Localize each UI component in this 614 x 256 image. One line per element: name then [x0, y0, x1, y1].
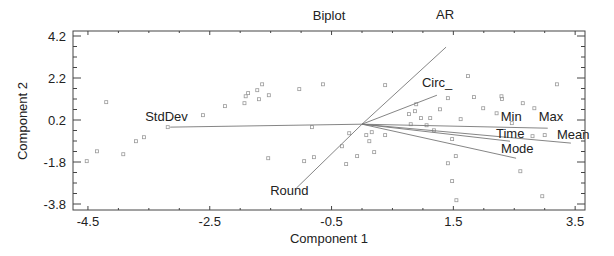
- data-point: [267, 94, 270, 97]
- data-point: [105, 101, 108, 104]
- data-point: [429, 117, 432, 120]
- y-axis-label: Component 2: [15, 82, 30, 160]
- data-point: [356, 155, 359, 158]
- biplot-chart: Biplot -4.5-2.5-0.51.53.5 4.22.20.2-1.8-…: [0, 0, 614, 256]
- data-point: [495, 112, 498, 115]
- y-tick-label: -3.8: [44, 197, 66, 212]
- data-point: [267, 157, 270, 160]
- data-point: [384, 84, 387, 87]
- data-point: [166, 126, 169, 129]
- vector-mean: [362, 124, 571, 143]
- vector-circ: [362, 95, 437, 124]
- vector-label: Min: [501, 109, 522, 124]
- data-point: [243, 102, 246, 105]
- vector-stddev: [170, 124, 362, 127]
- vector-label: StdDev: [145, 109, 188, 124]
- x-tick-label: -4.5: [77, 214, 99, 229]
- data-point: [555, 83, 558, 86]
- vector-label: Mode: [501, 141, 534, 156]
- data-point: [482, 107, 485, 110]
- x-tick-label: 3.5: [566, 214, 584, 229]
- data-point: [384, 134, 387, 137]
- y-tick-label: -1.8: [44, 155, 66, 170]
- data-point: [122, 153, 125, 156]
- vector-label: Circ_: [422, 75, 453, 90]
- data-point: [370, 131, 373, 134]
- vector-label: Round: [270, 183, 308, 198]
- data-point: [466, 75, 469, 78]
- data-point: [85, 160, 88, 163]
- y-tick-label: 4.2: [48, 29, 66, 44]
- data-point: [96, 150, 99, 153]
- data-point: [202, 114, 205, 117]
- data-point: [311, 126, 314, 129]
- x-tick-label: 1.5: [444, 214, 462, 229]
- data-point: [298, 88, 301, 91]
- data-point: [312, 156, 315, 159]
- chart-title: Biplot: [313, 8, 346, 23]
- data-point: [247, 92, 250, 95]
- y-tick-label: 0.2: [48, 113, 66, 128]
- data-point: [451, 138, 454, 141]
- chart-canvas: Biplot -4.5-2.5-0.51.53.5 4.22.20.2-1.8-…: [0, 0, 614, 256]
- x-tick-label: -2.5: [199, 214, 221, 229]
- data-point: [455, 199, 458, 202]
- vector-label: Max: [539, 109, 564, 124]
- data-point: [348, 132, 351, 135]
- vector-label: Mean: [557, 127, 590, 142]
- data-point: [258, 98, 261, 101]
- data-point: [454, 155, 457, 158]
- data-point: [373, 151, 376, 154]
- data-point: [413, 110, 416, 113]
- vector-label: Time: [496, 126, 524, 141]
- data-point: [451, 180, 454, 183]
- y-tick-label: 2.2: [48, 71, 66, 86]
- data-point: [543, 134, 546, 137]
- data-point: [368, 140, 371, 143]
- data-point: [438, 108, 441, 111]
- data-point: [407, 113, 410, 116]
- data-point: [519, 170, 522, 173]
- data-point: [446, 97, 449, 100]
- data-point: [365, 134, 368, 137]
- data-point: [322, 83, 325, 86]
- data-point: [345, 163, 348, 166]
- vector-label: AR: [436, 7, 454, 22]
- data-point: [142, 136, 145, 139]
- data-point: [531, 135, 534, 138]
- data-point: [459, 118, 462, 121]
- y-tick-labels: 4.22.20.2-1.8-3.8: [44, 29, 66, 212]
- loading-vectors: ARCirc_StdDevMinMaxMeanTimeModeRound: [145, 7, 589, 198]
- vector-round: [296, 124, 362, 188]
- data-point: [244, 95, 247, 98]
- data-point: [533, 107, 536, 110]
- data-point: [261, 83, 264, 86]
- data-point: [521, 102, 524, 105]
- data-point: [135, 140, 138, 143]
- x-tick-label: -0.5: [320, 214, 342, 229]
- data-point: [303, 160, 306, 163]
- x-axis-label: Component 1: [290, 231, 368, 246]
- data-point: [473, 96, 476, 99]
- x-tick-labels: -4.5-2.5-0.51.53.5: [77, 214, 584, 229]
- data-point: [256, 89, 259, 92]
- data-point: [541, 195, 544, 198]
- data-point: [420, 117, 423, 120]
- data-point: [223, 105, 226, 108]
- data-point: [446, 162, 449, 165]
- vector-mode: [362, 124, 516, 158]
